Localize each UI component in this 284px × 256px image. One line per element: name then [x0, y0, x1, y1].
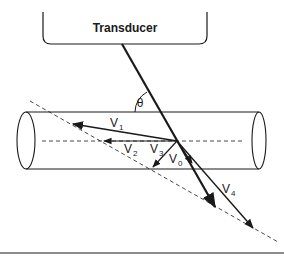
svg-text:V: V — [169, 152, 177, 166]
diagonal-dashed-line — [30, 101, 278, 242]
transducer-label: Transducer — [93, 21, 158, 35]
svg-text:V: V — [124, 142, 132, 156]
svg-text:V: V — [150, 142, 158, 156]
label-v3: V 3 — [150, 142, 164, 158]
svg-text:3: 3 — [159, 149, 164, 158]
svg-text:0: 0 — [178, 159, 183, 168]
vector-v4 — [177, 141, 253, 228]
vector-v1 — [73, 124, 177, 141]
label-v1: V 1 — [110, 116, 124, 132]
label-v4: V 4 — [222, 182, 236, 198]
label-v0: V 0 — [169, 152, 183, 168]
svg-text:2: 2 — [133, 149, 138, 158]
doppler-diagram: Transducer θ V 1 V 2 V 3 V 0 V 4 — [0, 0, 284, 256]
svg-text:V: V — [110, 116, 118, 130]
svg-text:1: 1 — [119, 123, 124, 132]
svg-text:4: 4 — [231, 189, 236, 198]
label-v2: V 2 — [124, 142, 138, 158]
angle-theta-label: θ — [137, 96, 144, 110]
ultrasound-beam — [122, 44, 215, 207]
svg-text:V: V — [222, 182, 230, 196]
